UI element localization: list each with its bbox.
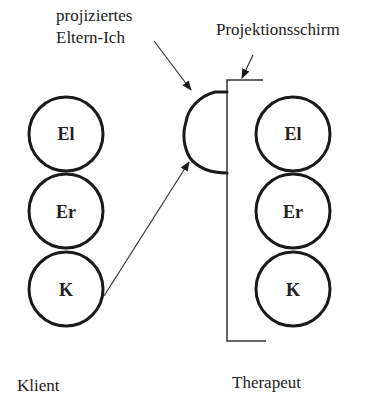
projected-parent-pointer-arrow xyxy=(154,41,191,90)
client-label: Klient xyxy=(17,376,60,396)
projection-screen-label: Projektionsschirm xyxy=(216,20,340,40)
projected-parent-label-line2: Eltern-Ich xyxy=(56,28,125,48)
projection-arrow xyxy=(104,162,189,296)
diagram-canvas: projiziertes Eltern-Ich Projektionsschir… xyxy=(0,0,386,414)
projected-parent-label-line1: projiziertes xyxy=(56,6,132,26)
therapist-child-label: K xyxy=(263,280,323,300)
client-child-label: K xyxy=(36,280,96,300)
therapist-parent-label: El xyxy=(263,124,323,144)
therapist-label: Therapeut xyxy=(232,373,301,393)
therapist-adult-label: Er xyxy=(263,202,323,222)
client-parent-label: El xyxy=(36,124,96,144)
projected-parent-shape xyxy=(184,92,227,173)
screen-pointer-arrow xyxy=(242,55,253,78)
client-adult-label: Er xyxy=(36,202,96,222)
